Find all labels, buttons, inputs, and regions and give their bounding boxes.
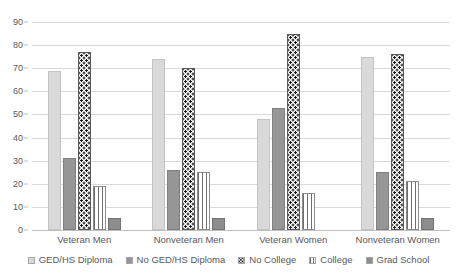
y-tick-label-80: 80 [13, 41, 23, 50]
bar[interactable] [421, 218, 434, 230]
bar[interactable] [406, 181, 419, 230]
y-tick-mark-20 [24, 183, 28, 184]
bar[interactable] [272, 108, 285, 230]
x-tick-label: Veteran Women [241, 234, 346, 246]
y-tick-label-10: 10 [13, 202, 23, 211]
bar-group [137, 22, 242, 230]
bar-group [32, 22, 137, 230]
bar[interactable] [376, 172, 389, 230]
y-tick-label-0: 0 [18, 226, 23, 235]
x-tick-label: Nonveteran Men [137, 234, 242, 246]
bars-layer [32, 22, 450, 230]
y-tick-label-30: 30 [13, 156, 23, 165]
y-tick-mark-90 [24, 22, 28, 23]
bar[interactable] [108, 218, 121, 230]
legend-label: No GED/HS Diploma [137, 255, 226, 265]
y-tick-mark-0 [24, 230, 28, 231]
y-tick-mark-60 [24, 91, 28, 92]
y-tick-mark-30 [24, 160, 28, 161]
legend-item[interactable]: GED/HS Diploma [28, 255, 113, 265]
x-axis-labels: Veteran MenNonveteran MenVeteran WomenNo… [32, 234, 450, 246]
bar[interactable] [257, 119, 270, 230]
legend-label: Grad School [377, 255, 430, 265]
y-tick-label-90: 90 [13, 18, 23, 27]
bar[interactable] [93, 186, 106, 230]
legend-swatch-icon [309, 257, 316, 264]
bar[interactable] [63, 158, 76, 230]
bar[interactable] [287, 34, 300, 230]
bar[interactable] [302, 193, 315, 230]
legend-swatch-icon [238, 257, 245, 264]
y-axis: 0102030405060708090 [0, 22, 28, 230]
y-tick-mark-40 [24, 137, 28, 138]
plot-area [32, 22, 450, 230]
legend-label: GED/HS Diploma [39, 255, 113, 265]
bar[interactable] [197, 172, 210, 230]
bar-group [241, 22, 346, 230]
x-tick-label: Veteran Men [32, 234, 137, 246]
y-tick-mark-70 [24, 68, 28, 69]
bar-chart: 0102030405060708090 Veteran MenNonvetera… [0, 0, 457, 278]
bar[interactable] [78, 52, 91, 230]
legend-item[interactable]: Grad School [366, 255, 430, 265]
y-tick-mark-10 [24, 206, 28, 207]
legend-swatch-icon [366, 257, 373, 264]
bar[interactable] [48, 71, 61, 230]
y-tick-label-40: 40 [13, 133, 23, 142]
bar[interactable] [167, 170, 180, 230]
bar[interactable] [182, 68, 195, 230]
bar[interactable] [152, 59, 165, 230]
y-tick-label-60: 60 [13, 87, 23, 96]
x-tick-label: Nonveteran Women [346, 234, 451, 246]
y-tick-label-70: 70 [13, 64, 23, 73]
legend-swatch-icon [126, 257, 133, 264]
bar[interactable] [361, 57, 374, 230]
y-tick-mark-80 [24, 45, 28, 46]
legend-item[interactable]: No GED/HS Diploma [126, 255, 226, 265]
legend-swatch-icon [28, 257, 35, 264]
axis-baseline [32, 230, 450, 231]
y-tick-mark-50 [24, 114, 28, 115]
legend-item[interactable]: No College [238, 255, 296, 265]
bar[interactable] [391, 54, 404, 230]
legend-label: College [320, 255, 352, 265]
y-tick-label-20: 20 [13, 179, 23, 188]
y-tick-label-50: 50 [13, 110, 23, 119]
chart-legend: GED/HS DiplomaNo GED/HS DiplomaNo Colleg… [0, 255, 457, 265]
legend-item[interactable]: College [309, 255, 352, 265]
bar[interactable] [212, 218, 225, 230]
legend-label: No College [249, 255, 296, 265]
bar-group [346, 22, 451, 230]
